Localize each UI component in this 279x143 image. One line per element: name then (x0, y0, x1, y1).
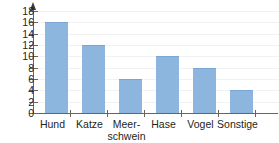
y-tick-label-12: 12 (10, 40, 34, 51)
x-tick-5 (218, 110, 219, 117)
y-tick-label-16: 16 (10, 17, 34, 28)
x-label-sonstige: Sonstige (214, 119, 261, 131)
y-tick-label-14: 14 (10, 29, 34, 40)
bar-sonstige (230, 90, 253, 114)
x-label-hase: Hase (144, 119, 183, 131)
x-label-meerschwein: Meer- schwein (105, 119, 148, 142)
plot-area: 18 16 14 12 10 8 6 4 2 0 Hund Katze Meer… (0, 0, 279, 143)
x-label-hund: Hund (33, 119, 72, 131)
y-tick-label-4: 4 (10, 85, 34, 96)
bar-katze (82, 45, 105, 114)
bar-meerschwein (119, 79, 142, 114)
gridline-12 (34, 45, 279, 46)
gridline-14 (34, 34, 279, 35)
bar-hund (45, 22, 68, 114)
y-tick-label-6: 6 (10, 74, 34, 85)
x-tick-4 (181, 110, 182, 117)
gridline-16 (34, 22, 279, 23)
bar-hase (156, 56, 179, 114)
gridline-18 (34, 11, 279, 12)
x-label-katze: Katze (70, 119, 109, 131)
x-tick-6 (255, 110, 256, 117)
y-tick-label-10: 10 (10, 51, 34, 62)
y-tick-label-2: 2 (10, 97, 34, 108)
x-tick-2 (107, 110, 108, 117)
y-tick-label-0: 0 (10, 108, 34, 119)
y-tick-label-8: 8 (10, 63, 34, 74)
bar-chart: 18 16 14 12 10 8 6 4 2 0 Hund Katze Meer… (0, 0, 279, 143)
x-tick-3 (144, 110, 145, 117)
x-tick-1 (70, 110, 71, 117)
y-tick-label-18: 18 (10, 6, 34, 17)
bar-vogel (193, 68, 216, 114)
